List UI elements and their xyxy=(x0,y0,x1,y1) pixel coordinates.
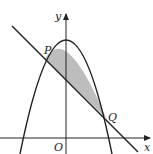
diagram-canvas: y x O P Q xyxy=(0,0,153,154)
point-q-label: Q xyxy=(108,111,117,124)
point-p-label: P xyxy=(43,44,52,57)
shaded-region xyxy=(45,49,106,118)
x-axis-label: x xyxy=(144,141,151,154)
origin-label: O xyxy=(54,141,63,154)
y-axis-label: y xyxy=(54,10,62,23)
